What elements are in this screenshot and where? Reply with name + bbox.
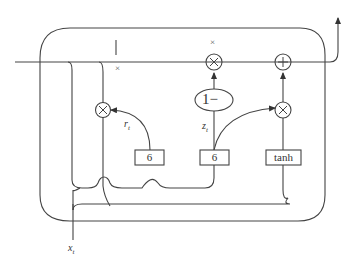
sigma-update-label: 6 (200, 152, 229, 163)
reset-arc (111, 110, 150, 150)
left-loop (68, 62, 214, 188)
reset-line (99, 62, 103, 103)
mark-left-multiply: × (115, 64, 120, 73)
input-line (73, 188, 80, 240)
tanh-label: tanh (266, 152, 301, 163)
reset-line-down (103, 117, 110, 206)
hidden-state-line (15, 18, 338, 62)
gru-diagram (0, 0, 355, 269)
one-minus-label: 1− (202, 92, 218, 107)
reset-gate-sub: t (128, 124, 130, 132)
input-sub: t (72, 248, 74, 256)
update-gate-label: zt (202, 121, 208, 134)
sigma-reset-label: 6 (135, 152, 164, 163)
plus-icon (278, 57, 288, 67)
mark-top-multiply: × (210, 38, 215, 47)
times-icon (279, 106, 287, 114)
update-gate-sub: t (206, 126, 208, 134)
cell-boundary (40, 28, 325, 221)
times-icon (99, 106, 107, 114)
update-arc (214, 108, 275, 150)
input-label: xt (68, 243, 74, 256)
reset-gate-label: rt (124, 119, 130, 132)
